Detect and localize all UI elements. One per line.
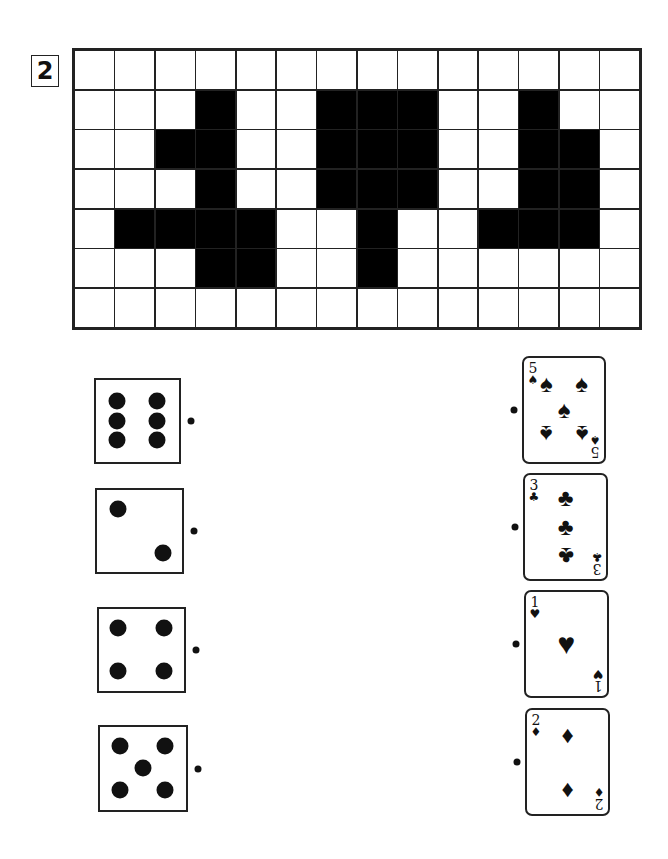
grid-cell[interactable] <box>317 210 356 248</box>
grid-cell[interactable] <box>519 51 558 89</box>
grid-cell[interactable] <box>519 91 558 129</box>
grid-cell[interactable] <box>600 51 639 89</box>
grid-cell[interactable] <box>479 249 518 287</box>
grid-cell[interactable] <box>115 249 154 287</box>
grid-cell[interactable] <box>560 170 599 208</box>
grid-cell[interactable] <box>115 170 154 208</box>
match-dot-card-2[interactable] <box>512 524 519 531</box>
grid-cell[interactable] <box>600 210 639 248</box>
grid-cell[interactable] <box>358 210 397 248</box>
grid-cell[interactable] <box>156 170 195 208</box>
grid-cell[interactable] <box>75 170 114 208</box>
grid-cell[interactable] <box>277 130 316 168</box>
grid-cell[interactable] <box>479 289 518 327</box>
grid-cell[interactable] <box>156 210 195 248</box>
grid-cell[interactable] <box>237 210 276 248</box>
match-dot-die-1[interactable] <box>188 418 195 425</box>
grid-cell[interactable] <box>560 91 599 129</box>
grid-cell[interactable] <box>439 51 478 89</box>
grid-cell[interactable] <box>519 210 558 248</box>
grid-cell[interactable] <box>237 249 276 287</box>
grid-cell[interactable] <box>358 170 397 208</box>
grid-cell[interactable] <box>196 289 235 327</box>
grid-cell[interactable] <box>317 130 356 168</box>
grid-cell[interactable] <box>196 51 235 89</box>
grid-cell[interactable] <box>237 289 276 327</box>
grid-cell[interactable] <box>156 130 195 168</box>
grid-cell[interactable] <box>277 170 316 208</box>
grid-cell[interactable] <box>156 91 195 129</box>
grid-cell[interactable] <box>560 289 599 327</box>
grid-cell[interactable] <box>398 249 437 287</box>
grid-cell[interactable] <box>358 91 397 129</box>
grid-cell[interactable] <box>398 51 437 89</box>
grid-cell[interactable] <box>237 130 276 168</box>
grid-cell[interactable] <box>75 210 114 248</box>
grid-cell[interactable] <box>156 249 195 287</box>
grid-cell[interactable] <box>115 210 154 248</box>
grid-cell[interactable] <box>115 130 154 168</box>
grid-cell[interactable] <box>196 130 235 168</box>
grid-cell[interactable] <box>317 249 356 287</box>
grid-cell[interactable] <box>519 289 558 327</box>
grid-cell[interactable] <box>277 289 316 327</box>
grid-cell[interactable] <box>317 51 356 89</box>
grid-cell[interactable] <box>75 289 114 327</box>
grid-cell[interactable] <box>600 289 639 327</box>
grid-cell[interactable] <box>156 51 195 89</box>
grid-cell[interactable] <box>439 91 478 129</box>
grid-cell[interactable] <box>358 130 397 168</box>
grid-cell[interactable] <box>398 289 437 327</box>
grid-cell[interactable] <box>398 130 437 168</box>
grid-cell[interactable] <box>277 249 316 287</box>
grid-cell[interactable] <box>75 249 114 287</box>
match-dot-card-4[interactable] <box>514 759 521 766</box>
grid-cell[interactable] <box>75 91 114 129</box>
grid-cell[interactable] <box>560 130 599 168</box>
grid-cell[interactable] <box>398 210 437 248</box>
grid-cell[interactable] <box>479 210 518 248</box>
grid-cell[interactable] <box>196 210 235 248</box>
grid-cell[interactable] <box>317 170 356 208</box>
grid-cell[interactable] <box>115 51 154 89</box>
grid-cell[interactable] <box>479 170 518 208</box>
grid-cell[interactable] <box>115 91 154 129</box>
grid-cell[interactable] <box>479 91 518 129</box>
grid-cell[interactable] <box>317 289 356 327</box>
grid-cell[interactable] <box>317 91 356 129</box>
grid-cell[interactable] <box>560 249 599 287</box>
grid-cell[interactable] <box>600 91 639 129</box>
grid-cell[interactable] <box>519 249 558 287</box>
grid-cell[interactable] <box>439 170 478 208</box>
grid-cell[interactable] <box>358 51 397 89</box>
grid-cell[interactable] <box>358 289 397 327</box>
grid-cell[interactable] <box>479 51 518 89</box>
grid-cell[interactable] <box>439 289 478 327</box>
grid-cell[interactable] <box>237 170 276 208</box>
match-dot-card-3[interactable] <box>513 641 520 648</box>
grid-cell[interactable] <box>439 130 478 168</box>
grid-cell[interactable] <box>196 249 235 287</box>
match-dot-die-3[interactable] <box>193 647 200 654</box>
grid-cell[interactable] <box>479 130 518 168</box>
grid-cell[interactable] <box>277 210 316 248</box>
grid-cell[interactable] <box>196 91 235 129</box>
grid-cell[interactable] <box>600 130 639 168</box>
grid-cell[interactable] <box>560 210 599 248</box>
grid-cell[interactable] <box>277 91 316 129</box>
grid-cell[interactable] <box>237 91 276 129</box>
grid-cell[interactable] <box>439 249 478 287</box>
grid-cell[interactable] <box>600 249 639 287</box>
grid-cell[interactable] <box>115 289 154 327</box>
grid-cell[interactable] <box>277 51 316 89</box>
grid-cell[interactable] <box>600 170 639 208</box>
grid-cell[interactable] <box>560 51 599 89</box>
grid-cell[interactable] <box>75 51 114 89</box>
grid-cell[interactable] <box>196 170 235 208</box>
grid-cell[interactable] <box>398 91 437 129</box>
grid-cell[interactable] <box>519 170 558 208</box>
match-dot-card-1[interactable] <box>511 407 518 414</box>
match-dot-die-2[interactable] <box>191 528 198 535</box>
grid-cell[interactable] <box>75 130 114 168</box>
grid-cell[interactable] <box>519 130 558 168</box>
